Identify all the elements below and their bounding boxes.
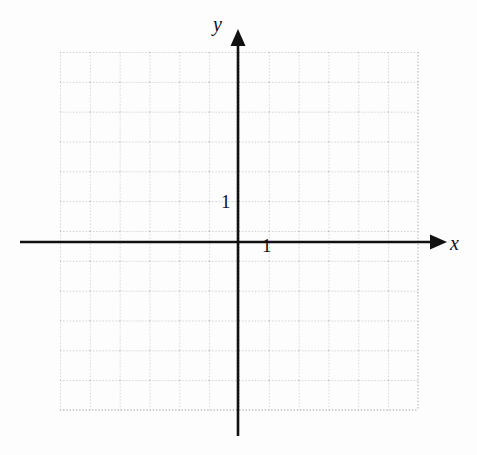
x-axis-tick-label-1: 1	[262, 236, 272, 255]
y-axis-label: y	[213, 14, 222, 34]
x-axis-label: x	[450, 233, 459, 253]
coordinate-plane-figure: y x 1 1	[0, 0, 477, 455]
y-axis-tick-label-1: 1	[221, 192, 231, 211]
coordinate-plane-svg	[0, 0, 477, 455]
